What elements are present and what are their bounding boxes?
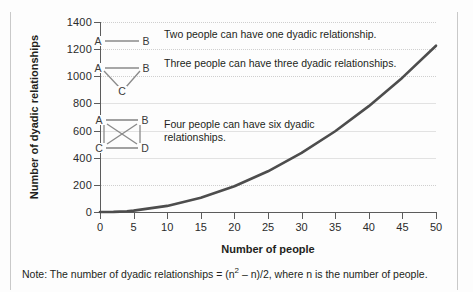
x-tick-20 xyxy=(234,212,235,219)
figure-note: Note: The number of dyadic relationships… xyxy=(22,266,428,280)
y-tick-label-400: 400 xyxy=(73,152,92,164)
node-label-a-2: A xyxy=(93,63,102,73)
node-label-a-3: A xyxy=(94,115,103,125)
node-label-a-1: A xyxy=(93,36,102,46)
x-tick-label-15: 15 xyxy=(195,221,207,233)
x-tick-label-5: 5 xyxy=(131,221,137,233)
x-tick-5 xyxy=(134,212,135,219)
x-tick-30 xyxy=(302,212,303,219)
y-tick-label-200: 200 xyxy=(73,179,92,191)
annotation-diagram-four-node: A B C D xyxy=(92,114,154,158)
x-tick-15 xyxy=(201,212,202,219)
x-tick-35 xyxy=(335,212,336,219)
node-label-c-3: C xyxy=(94,143,104,153)
annotation-diagram-three-node: A B C xyxy=(92,63,154,95)
x-tick-label-40: 40 xyxy=(363,221,375,233)
y-axis-title-label: Number of dyadic relationships xyxy=(28,35,40,199)
node-label-c-2: C xyxy=(117,86,127,96)
x-tick-40 xyxy=(369,212,370,219)
dyadic-relationships-figure: Number of dyadic relationships 1400 1200… xyxy=(0,0,473,292)
node-label-b-2: B xyxy=(141,63,150,73)
node-label-b-3: B xyxy=(140,115,149,125)
x-tick-label-50: 50 xyxy=(430,221,442,233)
annotation-text-four-node-line2: relationships. xyxy=(164,131,226,144)
y-tick-label-1200: 1200 xyxy=(67,43,92,55)
y-axis-title: Number of dyadic relationships xyxy=(26,22,42,212)
annotation-text-two-node: Two people can have one dyadic relations… xyxy=(164,28,376,41)
x-tick-label-20: 20 xyxy=(228,221,240,233)
x-tick-25 xyxy=(268,212,269,219)
x-tick-label-10: 10 xyxy=(161,221,173,233)
y-tick-label-600: 600 xyxy=(73,125,92,137)
note-prefix: Note: xyxy=(22,268,47,280)
x-tick-10 xyxy=(167,212,168,219)
x-tick-label-0: 0 xyxy=(97,221,103,233)
x-tick-label-25: 25 xyxy=(262,221,274,233)
annotation-text-three-node: Three people can have three dyadic relat… xyxy=(164,57,396,70)
x-axis-title: Number of people xyxy=(100,243,436,255)
note-body-before: The number of dyadic relationships = (n xyxy=(47,268,234,280)
x-tick-label-45: 45 xyxy=(396,221,408,233)
node-label-b-1: B xyxy=(141,36,150,46)
y-tick-label-1000: 1000 xyxy=(67,70,92,82)
annotation-text-four-node-line1: Four people can have six dyadic xyxy=(164,118,315,131)
note-body-after: – n)/2, where n is the number of people. xyxy=(239,268,428,280)
annotation-diagram-two-node: A B xyxy=(92,34,154,48)
x-tick-45 xyxy=(402,212,403,219)
node-label-d-3: D xyxy=(140,143,150,153)
x-tick-label-30: 30 xyxy=(295,221,307,233)
x-tick-50 xyxy=(436,212,437,219)
x-tick-label-35: 35 xyxy=(329,221,341,233)
y-tick-label-1400: 1400 xyxy=(67,16,92,28)
y-tick-label-0: 0 xyxy=(86,206,92,218)
y-tick-label-800: 800 xyxy=(73,97,92,109)
